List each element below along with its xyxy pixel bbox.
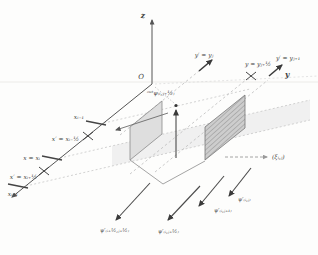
- grid-line: [155, 76, 318, 84]
- y-line-arrow-j: [199, 60, 212, 71]
- ray-arrow: [168, 186, 200, 220]
- ray-label: ψ′₍ᵢ,ⱼ₎: [238, 196, 251, 203]
- cell-edge: [163, 161, 205, 184]
- cell-top-label: ᵒᵘᵗψ₍ᵢ,ⱼ₊½₎: [147, 89, 175, 97]
- ray-arrow: [229, 168, 251, 196]
- grid-line: [26, 120, 310, 186]
- ray-arrow: [199, 176, 224, 206]
- x-mark-label: x = xᵢ: [23, 154, 41, 161]
- tick-x-i: [42, 156, 62, 160]
- cell-top-point: [174, 104, 177, 107]
- y-mark-label: y′ = yⱼ₊₁: [275, 54, 300, 62]
- mesh-cell-figure: z O xᵢ₋₁ x′ = xᵢ₋½ x = xᵢ x′ = xᵢ₊½ xᵢ₊₁…: [0, 0, 318, 255]
- ray-label: ψ′₍ᵢ₊½,ⱼ₊½₎: [100, 227, 130, 234]
- x-mark-label: xᵢ₋₁: [74, 113, 84, 120]
- figure-canvas: z O xᵢ₋₁ x′ = xᵢ₋½ x = xᵢ x′ = xᵢ₊½ xᵢ₊₁…: [0, 0, 318, 255]
- x-mark-label: xᵢ₊₁: [8, 190, 18, 197]
- ray-label: ψ′₍ᵢ,ⱼ₊½₎: [158, 228, 179, 235]
- right-cell-face: [205, 95, 245, 160]
- ray-label: ψ′₍ᵢ,ⱼ₊₁₎: [214, 207, 232, 214]
- x-mark-label: x′ = xᵢ₊½: [10, 173, 37, 180]
- direction-label: (ξᵢ,ⱼ): [272, 153, 285, 161]
- y-mark-label: y′ = yⱼ: [194, 51, 214, 59]
- cell-front-edges: [130, 160, 205, 184]
- ray-arrow: [116, 183, 150, 220]
- z-axis-label: z: [140, 11, 146, 20]
- cell-edge: [130, 160, 163, 184]
- y-mark-label: y = yⱼ₊½: [244, 60, 271, 68]
- y-cross-marker: [246, 72, 256, 80]
- x-mark-label: x′ = xᵢ₋½: [52, 135, 79, 142]
- y-axis-label: y: [284, 70, 290, 79]
- origin-label: O: [138, 73, 144, 81]
